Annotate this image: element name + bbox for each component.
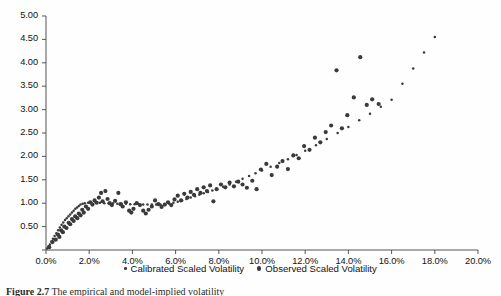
figure-caption: Figure 2.7 The empirical and model-impli… <box>6 286 476 296</box>
data-point <box>179 198 183 202</box>
data-point <box>223 185 227 189</box>
data-point <box>84 202 87 205</box>
data-point <box>280 159 284 163</box>
data-point <box>347 126 350 129</box>
data-point <box>198 191 202 195</box>
data-point <box>245 186 249 190</box>
y-tick-label: 4.50 <box>0 33 38 43</box>
data-point <box>156 202 160 206</box>
data-point <box>434 36 437 39</box>
data-point <box>189 190 193 194</box>
data-point <box>144 211 148 215</box>
legend-item-calibrated: Calibrated Scaled Volatility <box>124 263 244 274</box>
data-point <box>358 55 362 59</box>
data-point <box>278 162 281 165</box>
data-point <box>54 238 58 242</box>
data-point <box>67 215 70 218</box>
data-point <box>334 68 338 72</box>
data-point <box>248 175 251 178</box>
data-point <box>53 235 56 238</box>
data-point <box>47 245 51 249</box>
y-tick-label: 5.00 <box>0 10 38 20</box>
data-point <box>259 167 263 171</box>
data-point <box>142 203 145 206</box>
data-point <box>86 207 90 211</box>
data-point <box>195 187 199 191</box>
series-observed-scaled-volatility <box>47 55 381 249</box>
data-point <box>401 83 404 86</box>
data-point <box>241 178 244 181</box>
data-point <box>72 219 76 223</box>
scatter-plot <box>0 0 501 296</box>
data-point <box>138 203 142 207</box>
data-point <box>365 103 369 107</box>
data-point <box>131 207 135 211</box>
data-point <box>121 204 125 208</box>
data-point <box>65 217 68 220</box>
figure-container: 0.501.001.502.002.503.003.504.004.505.00… <box>0 0 501 296</box>
y-tick-label: 3.00 <box>0 104 38 114</box>
y-tick-label: 0.50 <box>0 221 38 231</box>
data-point <box>232 184 236 188</box>
data-point <box>153 198 157 202</box>
data-point <box>423 51 426 54</box>
data-point <box>105 197 109 201</box>
data-point <box>326 138 329 141</box>
data-point <box>287 158 290 161</box>
y-tick-label: 1.50 <box>0 174 38 184</box>
data-point <box>315 144 318 147</box>
data-point <box>71 211 74 214</box>
data-point <box>61 230 65 234</box>
data-point <box>304 150 307 153</box>
data-point <box>202 192 205 195</box>
data-point <box>146 203 149 206</box>
data-point <box>208 183 212 187</box>
data-point <box>129 210 133 214</box>
data-point <box>205 189 209 193</box>
data-point <box>81 202 84 205</box>
data-point <box>99 191 103 195</box>
data-point <box>380 106 383 109</box>
data-point <box>57 235 61 239</box>
data-point <box>302 144 306 148</box>
data-point <box>169 203 173 207</box>
data-point <box>219 182 223 186</box>
data-point <box>390 99 393 102</box>
data-point <box>264 162 268 166</box>
data-point <box>324 130 328 134</box>
data-point <box>176 194 180 198</box>
data-point <box>340 126 344 130</box>
data-point <box>57 229 60 232</box>
data-point <box>189 196 192 199</box>
chart-legend: Calibrated Scaled Volatility Observed Sc… <box>0 263 501 274</box>
data-point <box>90 203 94 207</box>
data-point <box>295 154 298 157</box>
data-point <box>286 167 290 171</box>
data-point <box>250 179 254 183</box>
data-point <box>62 221 65 224</box>
data-point <box>254 172 257 175</box>
data-point <box>177 201 180 204</box>
data-point <box>211 199 215 203</box>
y-tick-label: 2.50 <box>0 127 38 137</box>
legend-label-calibrated: Calibrated Scaled Volatility <box>131 263 245 274</box>
data-point <box>79 203 82 206</box>
data-point <box>97 195 101 199</box>
axes <box>42 16 478 254</box>
data-point <box>329 123 333 127</box>
data-point <box>352 95 356 99</box>
data-point <box>297 156 301 160</box>
data-point <box>116 202 119 205</box>
y-axis-ticks <box>42 16 46 250</box>
data-point <box>68 222 72 226</box>
legend-label-observed: Observed Scaled Volatility <box>265 263 376 274</box>
data-point <box>124 200 128 204</box>
data-point <box>95 201 99 205</box>
data-point <box>60 223 63 226</box>
legend-dot-large-icon <box>257 266 261 270</box>
data-point <box>64 226 68 230</box>
data-point <box>269 165 272 168</box>
data-point <box>202 185 206 189</box>
data-point <box>69 213 72 216</box>
y-tick-label: 1.00 <box>0 197 38 207</box>
